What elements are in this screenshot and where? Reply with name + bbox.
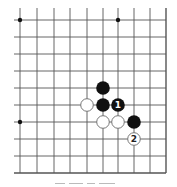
black-stone bbox=[96, 98, 110, 112]
move-number-label: 1 bbox=[115, 100, 121, 110]
board-grid bbox=[14, 8, 166, 173]
stones: 12 bbox=[81, 81, 141, 145]
move-number-label: 2 bbox=[131, 134, 137, 144]
black-stone bbox=[127, 115, 141, 129]
black-stone-move-1: 1 bbox=[111, 98, 125, 112]
white-stone bbox=[97, 116, 110, 129]
white-stone bbox=[81, 99, 94, 112]
star-point-icon bbox=[18, 18, 22, 22]
white-stone bbox=[112, 116, 125, 129]
white-stone-move-2: 2 bbox=[128, 133, 141, 146]
figure-caption-truncated bbox=[55, 183, 125, 187]
star-point-icon bbox=[18, 120, 22, 124]
go-board: 12 bbox=[0, 0, 177, 187]
black-stone bbox=[96, 81, 110, 95]
star-point-icon bbox=[116, 18, 120, 22]
